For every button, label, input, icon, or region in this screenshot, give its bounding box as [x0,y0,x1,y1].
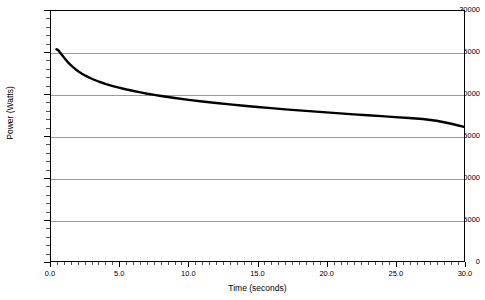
x-tick-minor-27 [424,262,425,265]
x-tick-minor-13 [230,262,231,265]
x-tick-minor-21 [341,262,342,265]
x-tick-minor-12 [216,262,217,265]
x-tick-minor-26 [410,262,411,265]
x-tick-minor-18.5 [306,262,307,265]
x-tick-label-5: 5.0 [99,269,139,278]
x-tick-minor-3 [92,262,93,265]
x-tick-10 [188,262,189,267]
x-tick-minor-6.5 [140,262,141,265]
x-tick-30 [465,262,466,267]
x-tick-minor-4.5 [112,262,113,265]
x-tick-minor-7.5 [154,262,155,265]
x-tick-minor-22 [354,262,355,265]
x-tick-minor-29.5 [458,262,459,265]
x-tick-minor-21.5 [347,262,348,265]
x-tick-15 [258,262,259,267]
x-tick-minor-28.5 [444,262,445,265]
x-tick-minor-28 [437,262,438,265]
x-tick-minor-3.5 [98,262,99,265]
x-tick-label-20: 20.0 [307,269,347,278]
series-layer [51,11,464,261]
x-tick-minor-17.5 [292,262,293,265]
x-tick-minor-8 [161,262,162,265]
x-tick-minor-11 [202,262,203,265]
x-tick-minor-1.5 [71,262,72,265]
x-tick-minor-14 [244,262,245,265]
x-tick-minor-18 [299,262,300,265]
x-tick-minor-13.5 [237,262,238,265]
x-tick-minor-19.5 [320,262,321,265]
x-tick-minor-7 [147,262,148,265]
x-axis: 0.05.010.015.020.025.030.0 [50,262,465,276]
x-tick-minor-10.5 [195,262,196,265]
x-tick-minor-24 [382,262,383,265]
x-tick-minor-1 [64,262,65,265]
x-tick-minor-6 [133,262,134,265]
x-tick-minor-9.5 [181,262,182,265]
plot-area [50,10,465,262]
x-tick-minor-0.5 [57,262,58,265]
x-tick-minor-2.5 [85,262,86,265]
x-tick-minor-5.5 [126,262,127,265]
x-tick-minor-15.5 [264,262,265,265]
x-tick-0 [50,262,51,267]
x-tick-minor-4 [105,262,106,265]
x-tick-minor-19 [313,262,314,265]
x-tick-minor-22.5 [361,262,362,265]
x-tick-minor-23 [368,262,369,265]
x-tick-minor-12.5 [223,262,224,265]
x-tick-minor-29 [451,262,452,265]
x-tick-minor-9 [175,262,176,265]
x-tick-label-15: 15.0 [238,269,278,278]
x-tick-label-25: 25.0 [376,269,416,278]
x-tick-label-30: 30.0 [445,269,485,278]
x-axis-title: Time (seconds) [50,283,465,293]
x-tick-minor-23.5 [375,262,376,265]
x-tick-25 [396,262,397,267]
x-tick-label-0: 0.0 [30,269,70,278]
x-tick-minor-16 [271,262,272,265]
x-tick-minor-27.5 [430,262,431,265]
x-tick-minor-20.5 [334,262,335,265]
x-tick-minor-14.5 [251,262,252,265]
x-tick-minor-2 [78,262,79,265]
series-line-power [57,49,464,127]
x-tick-5 [119,262,120,267]
x-tick-minor-25.5 [403,262,404,265]
x-tick-minor-8.5 [168,262,169,265]
x-tick-minor-24.5 [389,262,390,265]
x-tick-minor-11.5 [209,262,210,265]
x-tick-20 [327,262,328,267]
x-tick-minor-17 [285,262,286,265]
x-tick-label-10: 10.0 [168,269,208,278]
x-tick-minor-16.5 [278,262,279,265]
x-tick-minor-26.5 [417,262,418,265]
